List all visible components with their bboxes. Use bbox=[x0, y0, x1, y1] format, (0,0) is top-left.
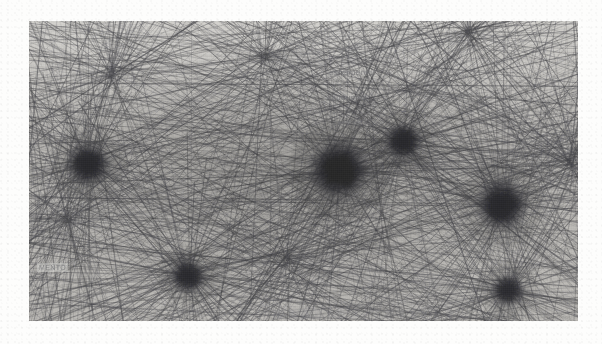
node-bottom-left bbox=[169, 257, 208, 296]
thread-network-svg bbox=[29, 21, 578, 321]
screenshot-canvas: Lentio estramento caduusmo corpore MENTO bbox=[0, 0, 602, 344]
node-left bbox=[64, 140, 113, 189]
artwork-plate: Lentio estramento caduusmo corpore MENTO bbox=[29, 21, 578, 321]
node-center bbox=[306, 137, 372, 203]
node-bottom-right bbox=[489, 272, 526, 309]
node-right bbox=[474, 177, 531, 234]
node-upper-right bbox=[383, 121, 424, 162]
